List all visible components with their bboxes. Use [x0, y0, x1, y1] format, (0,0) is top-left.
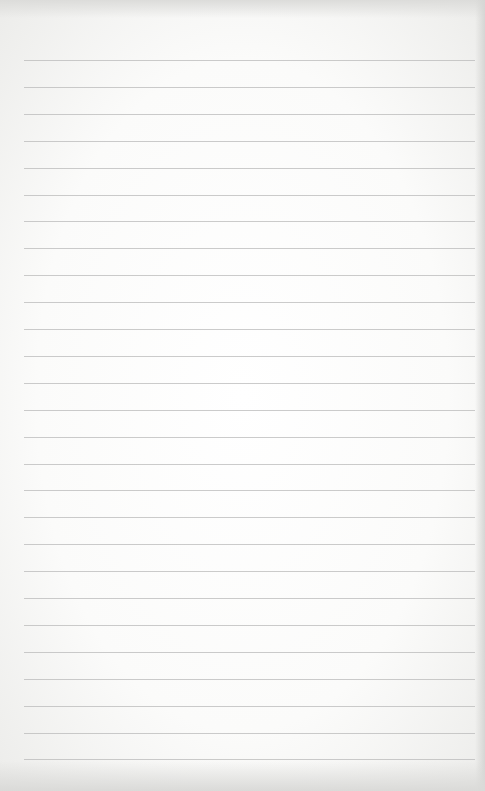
ruled-line	[24, 356, 475, 357]
ruled-line	[24, 625, 475, 626]
ruled-line	[24, 517, 475, 518]
ruled-line	[24, 329, 475, 330]
ruled-line	[24, 437, 475, 438]
ruled-line	[24, 195, 475, 196]
ruled-line	[24, 733, 475, 734]
ruled-line	[24, 679, 475, 680]
ruled-line	[24, 60, 475, 61]
ruled-line	[24, 759, 475, 760]
ruled-line	[24, 571, 475, 572]
paper-edge-bottom	[0, 761, 485, 791]
ruled-line	[24, 598, 475, 599]
ruled-line	[24, 410, 475, 411]
ruled-line	[24, 168, 475, 169]
ruled-line	[24, 87, 475, 88]
ruled-line	[24, 464, 475, 465]
ruled-line	[24, 652, 475, 653]
ruled-line	[24, 383, 475, 384]
ruled-line	[24, 248, 475, 249]
lined-paper	[0, 0, 485, 791]
ruled-line	[24, 490, 475, 491]
ruled-line	[24, 275, 475, 276]
ruled-line	[24, 141, 475, 142]
ruled-line	[24, 302, 475, 303]
ruled-line	[24, 544, 475, 545]
paper-edge-right	[475, 0, 485, 791]
ruled-line	[24, 706, 475, 707]
ruled-line	[24, 221, 475, 222]
ruled-line	[24, 114, 475, 115]
paper-edge-top	[0, 0, 485, 18]
